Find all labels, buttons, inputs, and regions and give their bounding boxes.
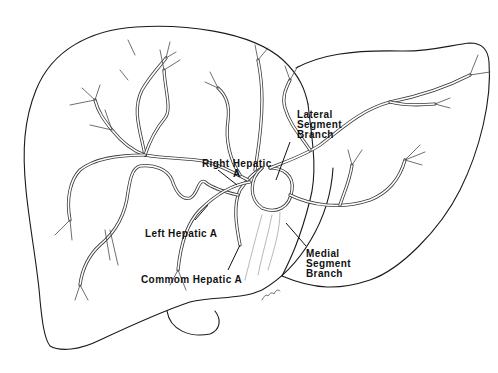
liver-artery-diagram: Right Hepatic A Left Hepatic A Commom He…	[0, 0, 498, 373]
terminal-twigs	[55, 40, 490, 300]
right-hepatic-artery-label: Right Hepatic A	[202, 159, 272, 179]
medial-segment-branch-label: Medial Segment Branch	[306, 249, 351, 279]
left-hepatic-artery-label: Left Hepatic A	[145, 229, 217, 239]
liver-illustration	[0, 0, 498, 373]
gallbladder-outline	[167, 311, 219, 335]
artist-signature	[262, 290, 280, 300]
faint-vessels	[245, 212, 280, 280]
common-hepatic-leader	[228, 245, 240, 270]
lateral-segment-branch-label: Lateral Segment Branch	[297, 110, 342, 140]
common-hepatic-artery-label: Commom Hepatic A	[141, 275, 242, 285]
